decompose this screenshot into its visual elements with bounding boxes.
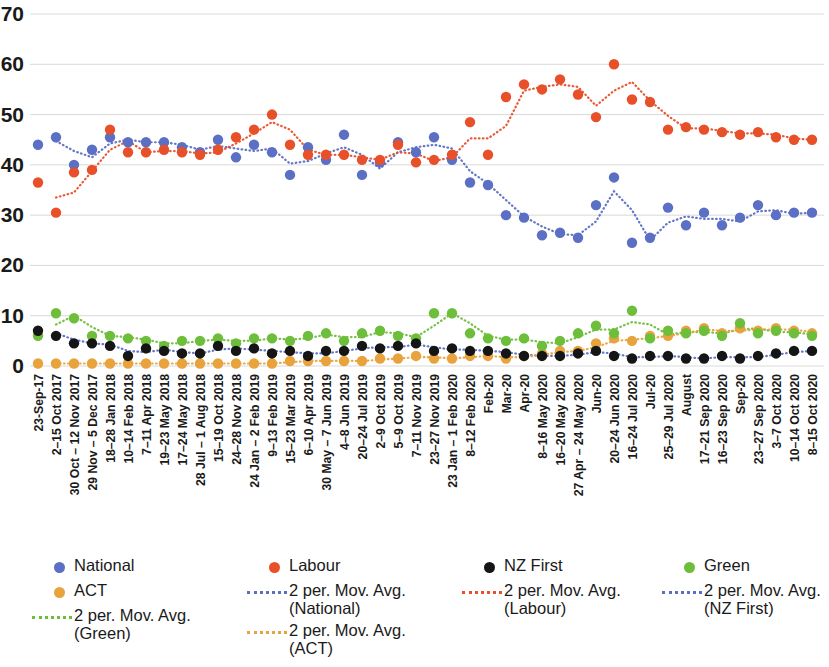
data-point	[789, 328, 799, 338]
data-point	[519, 333, 529, 343]
x-axis-tick-label: 7–11 Nov 2019	[410, 374, 424, 458]
data-point	[645, 333, 655, 343]
series-green	[33, 305, 817, 351]
data-point	[645, 233, 655, 243]
x-axis-tick-label: 24 Jan – 2 Feb 2019	[248, 374, 262, 488]
data-point	[807, 135, 817, 145]
data-point	[483, 333, 493, 343]
legend-item[interactable]: National	[30, 556, 191, 578]
data-point	[645, 97, 655, 107]
data-point	[375, 326, 385, 336]
x-axis-tick-label: 7–11 Apr 2018	[140, 374, 154, 455]
data-point	[591, 346, 601, 356]
data-point	[303, 351, 313, 361]
legend-item[interactable]: Labour	[245, 556, 406, 578]
legend-item[interactable]: 2 per. Mov. Avg. (ACT)	[245, 621, 406, 658]
data-point	[393, 341, 403, 351]
data-point	[411, 351, 421, 361]
data-point	[681, 328, 691, 338]
data-point	[699, 353, 709, 363]
data-point	[771, 326, 781, 336]
data-point	[357, 356, 367, 366]
data-point	[69, 313, 79, 323]
legend-item[interactable]: NZ First	[460, 556, 621, 578]
data-point	[753, 351, 763, 361]
legend-item[interactable]: 2 per. Mov. Avg. (National)	[245, 581, 406, 618]
x-axis-tick-label: 28 Jul – 1 Aug 2018	[194, 374, 208, 486]
data-point	[807, 207, 817, 217]
data-point	[519, 79, 529, 89]
x-axis-tick-label: 9–13 Feb 2019	[266, 374, 280, 457]
data-point	[177, 348, 187, 358]
y-axis-tick-label: 10	[1, 304, 24, 327]
data-point	[717, 127, 727, 137]
data-point	[609, 59, 619, 69]
legend-swatch	[684, 562, 695, 573]
data-point	[429, 308, 439, 318]
data-point	[267, 333, 277, 343]
data-point	[483, 150, 493, 160]
x-axis-tick-label: 2–15 Oct 2017	[50, 374, 64, 456]
data-point	[159, 358, 169, 368]
data-point	[33, 140, 43, 150]
y-axis-tick-label: 20	[1, 253, 24, 276]
x-axis-tick-label: 30 May – 7 Jun 2019	[320, 374, 334, 491]
data-point	[519, 351, 529, 361]
data-point	[753, 200, 763, 210]
data-point	[159, 346, 169, 356]
data-point	[51, 132, 61, 142]
data-point	[321, 356, 331, 366]
data-point	[357, 155, 367, 165]
data-point	[663, 124, 673, 134]
legend-item-label: NZ First	[504, 556, 563, 574]
legend-item[interactable]: 2 per. Mov. Avg. (Labour)	[460, 581, 621, 618]
legend-item[interactable]: ACT	[30, 581, 191, 603]
x-axis-tick-label: 4–8 Jun 2019	[338, 374, 352, 450]
data-point	[69, 167, 79, 177]
data-point	[681, 122, 691, 132]
data-point	[339, 336, 349, 346]
data-point	[105, 124, 115, 134]
data-point	[555, 351, 565, 361]
legend-item-label: Green	[704, 556, 750, 574]
data-point	[789, 135, 799, 145]
data-point	[555, 74, 565, 84]
x-axis-tick-label: 15–23 Mar 2019	[284, 374, 298, 464]
x-axis-tick-label: 10–14 Oct 2020	[788, 374, 802, 462]
x-axis-tick-label: Feb-20	[482, 374, 496, 414]
data-point	[393, 353, 403, 363]
data-point	[231, 358, 241, 368]
legend-item[interactable]: 2 per. Mov. Avg. (NZ First)	[660, 581, 821, 618]
legend-swatch	[247, 591, 287, 594]
data-point	[501, 210, 511, 220]
x-axis-tick-label: 15–19 Oct 2018	[212, 374, 226, 462]
data-point	[627, 336, 637, 346]
data-points	[33, 59, 817, 369]
gridlines	[30, 14, 824, 366]
x-axis-tick-label: 23–27 Sep 2020	[752, 374, 766, 464]
data-point	[123, 351, 133, 361]
data-point	[51, 358, 61, 368]
data-point	[321, 150, 331, 160]
data-point	[429, 346, 439, 356]
data-point	[699, 124, 709, 134]
y-axis-tick-label: 0	[12, 354, 24, 377]
data-point	[465, 177, 475, 187]
data-point	[627, 305, 637, 315]
legend-item[interactable]: Green	[660, 556, 821, 578]
legend-dotted-line-icon	[245, 581, 289, 603]
x-axis-tick-label: 16–24 Jul 2020	[626, 374, 640, 460]
data-point	[771, 348, 781, 358]
legend-item[interactable]: 2 per. Mov. Avg. (Green)	[30, 606, 191, 643]
data-point	[411, 157, 421, 167]
legend-item-label: National	[74, 556, 135, 574]
chart-legend: NationalACT2 per. Mov. Avg. (Green)Labou…	[0, 556, 829, 667]
data-point	[213, 341, 223, 351]
data-point	[501, 348, 511, 358]
data-point	[447, 343, 457, 353]
data-point	[717, 220, 727, 230]
data-point	[609, 351, 619, 361]
x-axis-tick-label: 18–28 Jan 2018	[104, 374, 118, 463]
x-axis-tick-label: 20–24 Jun 2020	[608, 374, 622, 464]
data-point	[177, 147, 187, 157]
